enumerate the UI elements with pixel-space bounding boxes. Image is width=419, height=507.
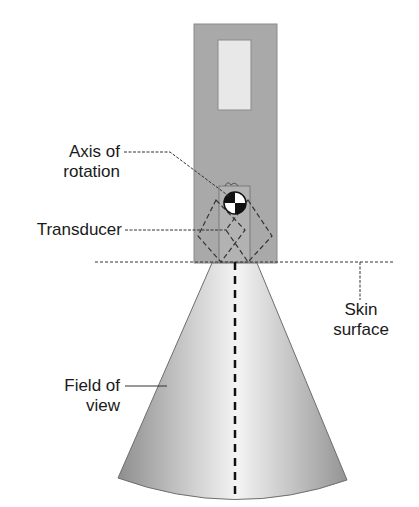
probe-window [218, 40, 251, 110]
axis-of-rotation-label-line1: Axis of [20, 142, 120, 162]
skin-surface-label: Skin surface [325, 300, 397, 340]
axis-of-rotation-label-line2: rotation [20, 162, 120, 182]
field-of-view-label: Field of view [20, 376, 120, 416]
skin-surface-label-line1: Skin [325, 300, 397, 320]
skin-surface-label-line2: surface [325, 320, 397, 340]
ultrasound-diagram [0, 0, 419, 507]
field-of-view-label-line2: view [20, 396, 120, 416]
transducer-label: Transducer [10, 220, 122, 240]
field-of-view-label-line1: Field of [20, 376, 120, 396]
field-of-view-beam [118, 263, 347, 500]
transducer-label-text: Transducer [37, 220, 122, 239]
axis-of-rotation-label: Axis of rotation [20, 142, 120, 182]
